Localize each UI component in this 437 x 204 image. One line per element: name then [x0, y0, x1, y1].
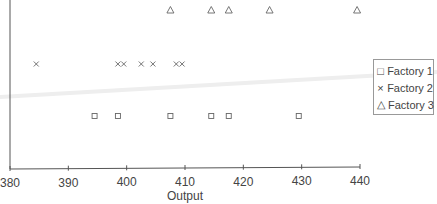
x-marker-icon [174, 62, 179, 67]
legend-item-factory-1: □ Factory 1 [377, 62, 433, 79]
triangle-marker-icon: △ [377, 98, 385, 111]
x-tick-label: 410 [175, 175, 195, 189]
data-points [34, 7, 361, 119]
square-marker-icon: □ [377, 65, 384, 77]
triangle-marker-icon [354, 7, 361, 14]
x-marker-icon [150, 62, 155, 67]
x-marker-icon [139, 62, 144, 67]
x-axis-title: Output [167, 189, 204, 203]
square-marker-icon [92, 114, 97, 119]
triangle-marker-icon [266, 7, 273, 14]
square-marker-icon [209, 114, 214, 119]
faint-band [0, 72, 437, 97]
x-tick-label: 430 [292, 174, 312, 188]
x-tick-label: 380 [0, 176, 20, 190]
square-marker-icon [226, 114, 231, 119]
legend-label: Factory 1 [387, 65, 433, 77]
legend-item-factory-2: × Factory 2 [377, 79, 433, 96]
x-tick-label: 420 [233, 175, 253, 189]
legend: □ Factory 1 × Factory 2 △ Factory 3 [373, 59, 434, 115]
triangle-marker-icon [167, 7, 174, 14]
legend-item-factory-3: △ Factory 3 [377, 96, 433, 113]
x-marker-icon: × [377, 82, 384, 94]
legend-label: Factory 3 [388, 99, 434, 111]
x-tick-label: 390 [58, 176, 78, 190]
triangle-marker-icon [225, 7, 232, 14]
triangle-marker-icon [208, 7, 215, 14]
legend-label: Factory 2 [387, 82, 433, 94]
x-marker-icon [121, 62, 126, 67]
square-marker-icon [168, 114, 173, 119]
x-tick-label: 400 [117, 175, 137, 189]
x-marker-icon [180, 62, 185, 67]
scatter-plot: 380390400410420430440 Output [0, 0, 437, 204]
square-marker-icon [115, 114, 120, 119]
square-marker-icon [296, 114, 301, 119]
x-marker-icon [34, 62, 39, 67]
x-tick-label: 440 [350, 174, 370, 188]
x-marker-icon [115, 62, 120, 67]
